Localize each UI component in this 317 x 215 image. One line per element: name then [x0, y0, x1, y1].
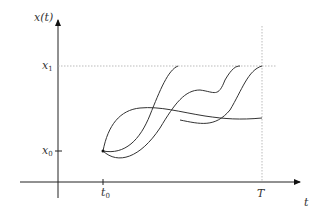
trajectory-diagram: x(t) t x1 x0 t0 T [0, 0, 317, 215]
x1-label: x1 [42, 59, 53, 73]
x0-label: x0 [42, 144, 53, 158]
T-label: T [257, 187, 266, 200]
start-point [102, 150, 105, 153]
curve-4 [180, 66, 262, 123]
curve-1 [103, 108, 262, 151]
t0-label: t0 [101, 186, 110, 200]
y-axis-label: x(t) [34, 11, 53, 24]
x-axis-label: t [304, 196, 309, 209]
curve-3 [103, 66, 240, 158]
